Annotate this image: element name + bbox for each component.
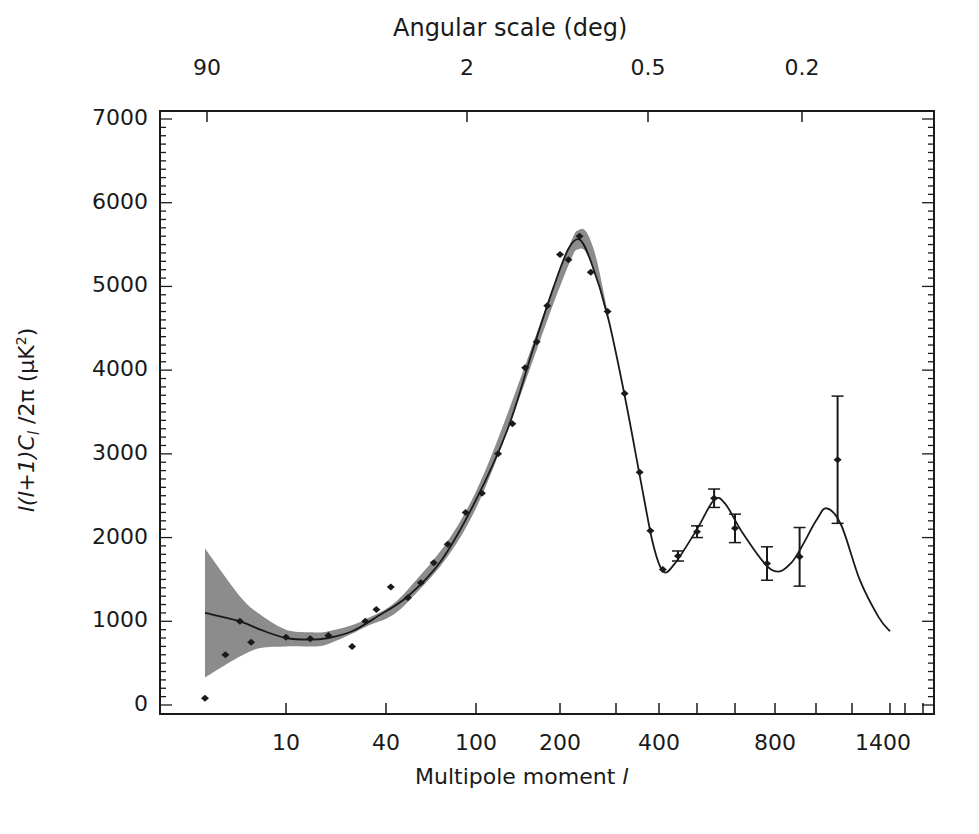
x-axis-label-symbol: l [622, 764, 628, 789]
data-point [621, 390, 629, 397]
y-axis-label-sub: l [25, 431, 43, 435]
data-points [201, 233, 844, 702]
top-tick-label: 2 [460, 55, 474, 80]
top-tick-label: 0.2 [785, 55, 820, 80]
data-point [348, 643, 356, 650]
data-point [604, 308, 612, 315]
x-tick-label: 1400 [855, 730, 911, 755]
top-tick-label: 90 [193, 55, 221, 80]
data-point [201, 695, 209, 702]
data-point [761, 547, 773, 580]
x-axis-label-text: Multipole moment [415, 764, 622, 789]
y-axis-label-text: l(l+1)C [14, 435, 39, 512]
data-point [387, 583, 395, 590]
x-axis-label: Multipole moment l [415, 764, 628, 789]
y-tick-label: 0 [78, 691, 148, 716]
chart-title: Angular scale (deg) [393, 14, 627, 42]
x-tick-label: 200 [539, 730, 581, 755]
data-point [372, 606, 380, 613]
x-tick-label: 800 [754, 730, 796, 755]
y-tick-label: 7000 [78, 105, 148, 130]
y-tick-label: 6000 [78, 189, 148, 214]
data-point [556, 251, 564, 258]
plot-frame [160, 111, 934, 714]
y-tick-label: 1000 [78, 607, 148, 632]
data-point [636, 469, 644, 476]
y-axis-label: l(l+1)Cl /2π (μK2) [13, 328, 44, 513]
variance-band-area [205, 229, 608, 678]
y-axis-label-rest: /2π (μK [14, 345, 39, 431]
y-tick-label: 3000 [78, 440, 148, 465]
x-tick-label: 10 [272, 730, 300, 755]
model-curve [205, 239, 890, 640]
y-tick-label: 2000 [78, 524, 148, 549]
data-point [646, 527, 654, 534]
top-tick-label: 0.5 [631, 55, 666, 80]
cosmic-variance-band [205, 229, 608, 678]
x-tick-label: 40 [372, 730, 400, 755]
x-tick-label: 400 [638, 730, 680, 755]
y-axis-label-close: ) [14, 328, 39, 337]
x-tick-label: 100 [455, 730, 497, 755]
model-curve-path [205, 239, 890, 640]
y-tick-label: 5000 [78, 272, 148, 297]
data-point [832, 396, 844, 523]
y-tick-label: 4000 [78, 356, 148, 381]
y-axis-label-sup: 2 [13, 336, 29, 345]
